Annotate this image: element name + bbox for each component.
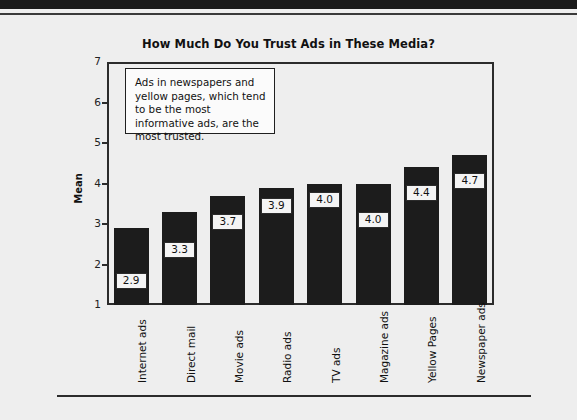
- bar: [162, 212, 197, 305]
- bar-value-label: 2.9: [116, 273, 147, 289]
- bar-value-label: 4.7: [454, 173, 485, 189]
- bar-value-label: 4.4: [406, 185, 437, 201]
- category-label: Direct mail: [185, 326, 197, 383]
- bar-value-label: 3.7: [212, 214, 243, 230]
- callout-box: Ads in newspapers and yellow pages, whic…: [125, 68, 275, 134]
- category-label: Newspaper ads: [475, 302, 487, 383]
- y-tick-label: 4: [81, 177, 101, 189]
- y-tick-label: 1: [81, 298, 101, 310]
- chart-title: How Much Do You Trust Ads in These Media…: [0, 37, 577, 51]
- callout-text: Ads in newspapers and yellow pages, whic…: [135, 76, 266, 144]
- bar-value-label: 3.9: [261, 198, 292, 214]
- bar-value-label: 3.3: [164, 242, 195, 258]
- y-tick-label: 7: [81, 55, 101, 67]
- category-label: Internet ads: [136, 319, 148, 383]
- bottom-rule: [57, 395, 531, 397]
- bar-value-label: 4.0: [309, 192, 340, 208]
- bar: [356, 184, 391, 306]
- category-label: Yellow Pages: [426, 316, 438, 383]
- category-label: TV ads: [330, 347, 342, 383]
- category-label: Magazine ads: [378, 311, 390, 383]
- bar: [210, 196, 245, 305]
- y-tick-label: 6: [81, 96, 101, 108]
- bar: [114, 228, 149, 305]
- y-axis-label: Mean: [73, 169, 84, 209]
- chart-figure: How Much Do You Trust Ads in These Media…: [0, 15, 577, 420]
- y-tick-label: 5: [81, 136, 101, 148]
- bar-value-label: 4.0: [358, 212, 389, 228]
- y-tick-label: 2: [81, 258, 101, 270]
- category-label: Movie ads: [233, 330, 245, 383]
- top-black-band: [0, 0, 577, 9]
- category-label: Radio ads: [281, 332, 293, 383]
- y-tick-label: 3: [81, 217, 101, 229]
